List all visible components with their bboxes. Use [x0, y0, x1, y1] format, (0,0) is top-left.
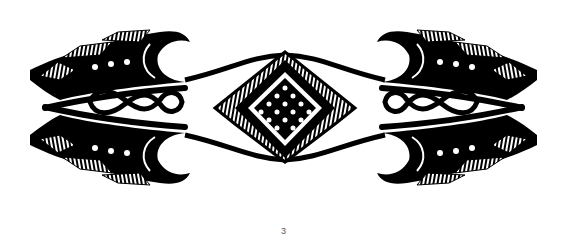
central-medallion	[215, 52, 355, 162]
ornament-illustration	[0, 0, 567, 210]
wing-lower-right	[377, 107, 537, 185]
figure-number: 3	[0, 226, 567, 236]
wing-lower-left	[30, 107, 190, 185]
